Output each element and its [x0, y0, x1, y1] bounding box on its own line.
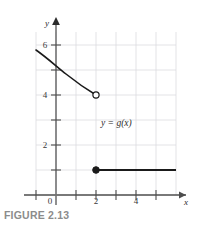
curve-branch-left	[36, 50, 96, 95]
x-axis-name: x	[183, 197, 188, 205]
y-tick-label-4: 4	[43, 90, 48, 100]
x-tick-label-4: 4	[134, 196, 139, 205]
curve-label: y = g(x)	[100, 118, 132, 129]
figure-container: 0 2 4 6 4 2 y x y = g(x) FIGURE 2.13	[0, 0, 199, 229]
y-tick-label-2: 2	[43, 140, 48, 150]
y-axis-arrow	[52, 17, 60, 25]
graph-plot: 0 2 4 6 4 2 y x y = g(x)	[0, 0, 199, 205]
y-axis-name: y	[44, 18, 49, 28]
open-circle-marker	[93, 92, 99, 98]
filled-circle-marker	[93, 167, 100, 174]
figure-caption: FIGURE 2.13	[4, 209, 69, 221]
x-tick-label-2: 2	[94, 196, 99, 205]
origin-label: 0	[48, 196, 53, 205]
y-tick-label-6: 6	[43, 40, 48, 50]
